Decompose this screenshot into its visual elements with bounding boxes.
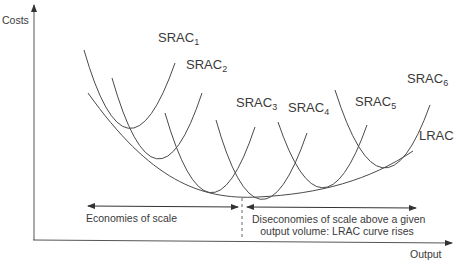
srac-6-label: SRAC6: [407, 71, 448, 88]
economies-of-scale-label: Economies of scale: [86, 212, 177, 224]
srac-3-label: SRAC3: [236, 95, 277, 112]
lrac-label: LRAC: [419, 128, 454, 143]
economies-range-arrow: [88, 206, 238, 207]
srac-1-curve: [84, 50, 175, 128]
diseconomies-of-scale-label: Diseconomies of scale above a given outp…: [252, 213, 422, 237]
srac-4-label: SRAC4: [288, 100, 329, 117]
srac-1-label: SRAC1: [158, 30, 199, 47]
srac-curves: [84, 50, 430, 199]
x-axis-label: Output: [410, 248, 442, 260]
srac-5-curve: [278, 122, 367, 188]
x-axis: [33, 240, 452, 243]
diseconomies-line-2: output volume: LRAC curve rises: [252, 225, 422, 237]
y-axis-label: Costs: [2, 14, 29, 26]
srac-2-curve: [112, 78, 202, 159]
srac-2-label: SRAC2: [186, 57, 227, 74]
diseconomies-line-1: Diseconomies of scale above a given: [252, 213, 422, 225]
srac-5-label: SRAC5: [355, 94, 396, 111]
diseconomies-range-arrow: [247, 207, 416, 208]
